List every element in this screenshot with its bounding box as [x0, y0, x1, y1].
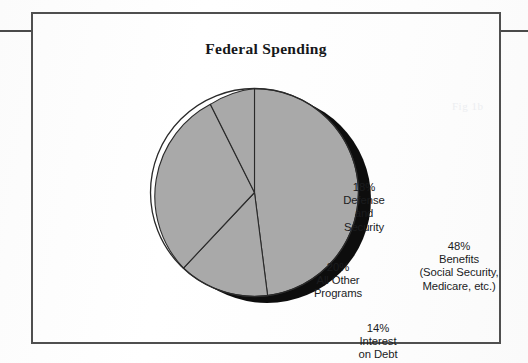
pie-label-benefits: 48% Benefits (Social Security, Medicare,… — [398, 240, 520, 293]
pie-label-all-other-programs: 20% All Other Programs — [292, 261, 384, 301]
pie-label-benefits-line2: (Social Security, — [398, 266, 520, 279]
pie-label-benefits-line3: Medicare, etc.) — [398, 280, 520, 293]
left-margin-rule — [0, 30, 33, 32]
pie-label-defense-line3: Security — [318, 221, 410, 234]
pie-chart: 18% Defense and Security 48% Benefits (S… — [140, 80, 380, 310]
pie-label-interest-percent: 14% — [332, 322, 424, 335]
scan-bleed-artifact: Fig 1b — [452, 100, 486, 113]
pie-label-defense-and-security: 18% Defense and Security — [318, 181, 410, 234]
pie-label-other-percent: 20% — [292, 261, 384, 274]
right-margin-rule — [499, 30, 528, 32]
pie-label-interest-on-debt: 14% Interest on Debt — [332, 322, 424, 362]
pie-label-other-line1: All Other — [292, 274, 384, 287]
pie-label-interest-line2: on Debt — [332, 348, 424, 361]
pie-label-defense-percent: 18% — [318, 181, 410, 194]
pie-label-other-line2: Programs — [292, 287, 384, 300]
pie-label-benefits-percent: 48% — [398, 240, 520, 253]
chart-title: Federal Spending — [31, 40, 501, 58]
pie-label-interest-line1: Interest — [332, 335, 424, 348]
pie-label-defense-line2: and — [318, 207, 410, 220]
pie-label-defense-line1: Defense — [318, 194, 410, 207]
scanned-page: Fig 1b Federal Spending 18% Defense and … — [0, 0, 528, 363]
pie-label-benefits-line1: Benefits — [398, 253, 520, 266]
